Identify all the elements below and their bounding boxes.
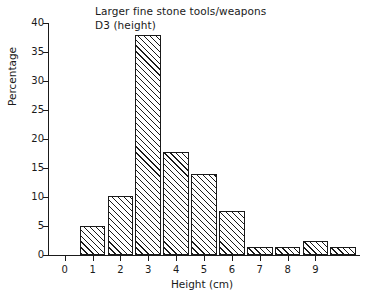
x-tick-label: 6 [222,263,242,276]
y-tick-label: 10 [31,190,44,203]
x-tick-label: 1 [83,263,103,276]
bar [275,247,301,255]
x-tick-mark [315,256,316,261]
x-tick-mark [260,256,261,261]
bar [219,211,245,255]
x-tick-label: 4 [166,263,186,276]
x-tick-mark [148,256,149,261]
x-tick-mark [204,256,205,261]
x-tick-label: 5 [194,263,214,276]
x-tick-mark [120,256,121,261]
x-tick-label: 2 [110,263,130,276]
chart-title: Larger fine stone tools/weapons [95,4,266,18]
x-tick-mark [93,256,94,261]
x-tick-label: 9 [305,263,325,276]
bars-group [48,23,360,255]
y-tick-label: 40 [31,16,44,29]
y-tick-label: 5 [38,219,44,232]
bar [303,241,329,255]
x-tick-mark [232,256,233,261]
bar [330,247,356,255]
y-tick-label: 30 [31,74,44,87]
y-tick-label: 20 [31,132,44,145]
x-tick-label: 7 [250,263,270,276]
y-tick-label: 25 [31,103,44,116]
bar [80,226,106,255]
x-tick-mark [288,256,289,261]
x-tick-label: 8 [278,263,298,276]
y-tick-label: 15 [31,161,44,174]
x-tick-mark [65,256,66,261]
bar [247,247,273,255]
bar [108,196,134,255]
y-axis-label: Percentage [6,47,18,106]
y-tick-label: 35 [31,45,44,58]
bar [163,152,189,255]
x-axis-label: Height (cm) [0,278,374,290]
bar [191,174,217,255]
bar [135,35,161,255]
y-tick-label: 0 [38,248,44,261]
chart-figure: Larger fine stone tools/weapons D3 (heig… [0,0,374,299]
x-tick-label: 3 [138,263,158,276]
x-tick-label: 0 [55,263,75,276]
x-tick-mark [176,256,177,261]
